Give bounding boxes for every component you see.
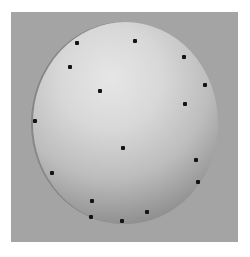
marker-dot [145, 210, 149, 214]
marker-dot [98, 89, 102, 93]
marker-dot [50, 171, 54, 175]
marker-dot [121, 146, 125, 150]
marker-dot [194, 158, 198, 162]
marker-dot [89, 215, 93, 219]
marker-dot [90, 199, 94, 203]
marker-dot [196, 180, 200, 184]
marker-dot [120, 219, 124, 223]
marker-dot [203, 83, 207, 87]
marker-dot [133, 39, 137, 43]
marker-dot [75, 41, 79, 45]
marker-dot [68, 65, 72, 69]
marker-dot [182, 55, 186, 59]
marker-dot [183, 102, 187, 106]
marker-dot [33, 119, 37, 123]
sphere [33, 22, 218, 224]
